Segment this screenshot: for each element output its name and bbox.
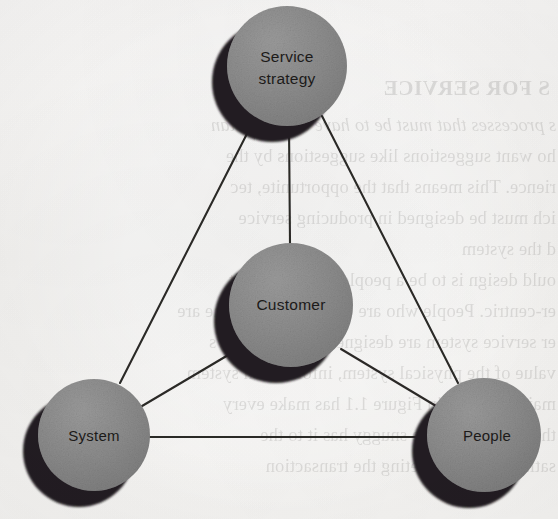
service-triangle-diagram: Service strategy Customer System People: [0, 0, 558, 519]
edge-service-strategy-to-customer: [289, 126, 290, 243]
node-label-service-strategy-line2: strategy: [258, 70, 315, 87]
node-service-strategy[interactable]: Service strategy: [227, 6, 347, 126]
edge-service-strategy-to-people: [322, 116, 458, 383]
scanned-page: S FOR SERVICE s processes that must be t…: [0, 0, 558, 519]
node-label-customer: Customer: [256, 296, 325, 313]
edge-people-to-customer: [341, 349, 441, 409]
node-people[interactable]: People: [427, 378, 541, 492]
node-customer[interactable]: Customer: [229, 243, 353, 367]
node-label-people: People: [463, 427, 511, 444]
edge-system-to-customer: [137, 348, 240, 409]
node-label-system: System: [68, 427, 120, 444]
node-circle-service-strategy[interactable]: [227, 6, 347, 126]
node-system[interactable]: System: [38, 379, 150, 491]
node-label-service-strategy-line1: Service: [260, 48, 313, 65]
